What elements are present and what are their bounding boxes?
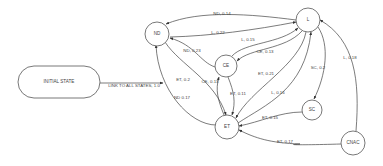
svg-text:CE, 0.13: CE, 0.13	[201, 79, 219, 84]
svg-text:L: L	[307, 17, 310, 22]
svg-text:ND: ND	[154, 31, 161, 36]
svg-text:SC: SC	[309, 107, 316, 112]
state-diagram: INITIAL STATE LINK TO ALL STATES, 1.0 ND…	[0, 0, 383, 166]
initial-state-node: INITIAL STATE	[18, 66, 100, 98]
edge-et-to-nd: ND 0.17	[156, 45, 216, 125]
edge-initial-link: LINK TO ALL STATES, 1.0	[100, 83, 163, 88]
initial-state-label: INITIAL STATE	[44, 79, 75, 84]
svg-text:L, 0.16: L, 0.16	[271, 90, 285, 95]
svg-text:ET, 0.21: ET, 0.21	[258, 71, 275, 76]
svg-text:ND, 0.23: ND, 0.23	[183, 48, 201, 53]
edge-l-to-sc: SC, 0.2	[311, 27, 326, 99]
edge-l-to-ce: CE, 0.13	[237, 31, 302, 61]
node-sc: SC	[302, 100, 322, 120]
svg-text:L, 0.18: L, 0.18	[343, 55, 357, 60]
node-et: ET	[215, 115, 239, 139]
edge-l-to-nd: ND, 0.14	[166, 11, 296, 24]
svg-text:CE, 0.13: CE, 0.13	[256, 49, 274, 54]
edge-et-to-ce: CE, 0.13	[201, 77, 224, 115]
svg-text:CNAC: CNAC	[346, 140, 360, 145]
edge-nd-to-l: L, 0.22	[170, 22, 296, 37]
svg-text:L, 0.15: L, 0.15	[241, 37, 255, 42]
edge-cnac-to-l: L, 0.18	[320, 20, 357, 131]
svg-text:ET, 0.11: ET, 0.11	[230, 91, 246, 96]
node-l: L	[296, 8, 320, 32]
edge-sc-to-et: ET, 0.15	[239, 112, 302, 126]
svg-text:SC, 0.2: SC, 0.2	[311, 65, 326, 70]
svg-text:ET, 0.15: ET, 0.15	[262, 115, 279, 120]
node-ce: CE	[215, 55, 237, 77]
svg-text:ND 0.17: ND 0.17	[174, 95, 191, 100]
svg-text:ET, 0.2: ET, 0.2	[176, 77, 190, 82]
svg-text:L, 0.22: L, 0.22	[211, 30, 225, 35]
edge-ce-to-nd: ND, 0.23	[170, 38, 215, 67]
edge-ce-to-et: ET, 0.11	[228, 77, 246, 115]
node-nd: ND	[145, 22, 169, 46]
node-cnac: CNAC	[341, 131, 365, 155]
edge-label-initial-link: LINK TO ALL STATES, 1.0	[108, 83, 160, 88]
edge-l-to-et: ET, 0.21	[236, 32, 306, 118]
edge-cnac-to-et: ET, 0.17	[239, 130, 341, 145]
svg-text:ET: ET	[224, 124, 230, 129]
edge-et-to-l: L, 0.16	[238, 32, 311, 123]
svg-text:ND, 0.14: ND, 0.14	[213, 11, 231, 16]
svg-text:CE: CE	[223, 63, 229, 68]
svg-text:ET, 0.17: ET, 0.17	[277, 139, 294, 144]
